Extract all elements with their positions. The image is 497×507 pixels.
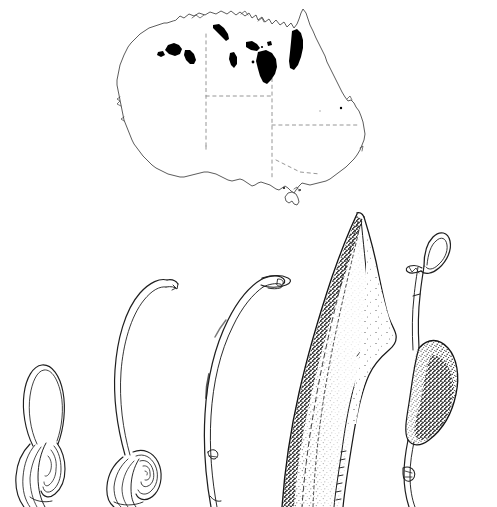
plate-canvas xyxy=(0,0,497,507)
coast-dot-qld xyxy=(340,107,342,109)
tasmania-islet-b xyxy=(299,189,301,191)
botanical-plate: australia-distribution-map xyxy=(0,0,497,507)
inland-dot-a xyxy=(252,61,255,64)
inland-dot-b xyxy=(261,46,263,48)
tasmania-islet-a xyxy=(283,187,285,189)
interior-faint-dot xyxy=(319,110,321,112)
